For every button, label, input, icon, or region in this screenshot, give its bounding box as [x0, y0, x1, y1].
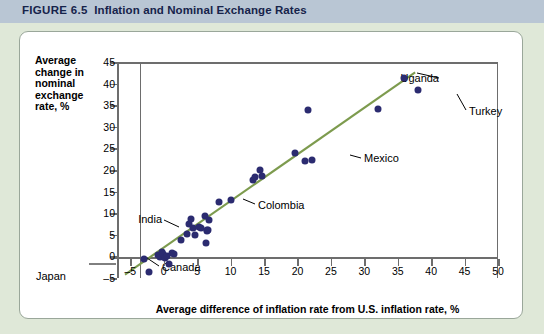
figure-title: FIGURE 6.5 Inflation and Nominal Exchang…: [22, 4, 307, 16]
annotation-mexico: Mexico: [364, 152, 399, 164]
x-tick-label: 40: [425, 265, 437, 277]
y-tick-label: 25: [103, 142, 115, 154]
data-point-turkey: [414, 86, 421, 93]
data-point: [171, 251, 178, 258]
y-tick-label: 35: [103, 99, 115, 111]
x-tick-label: 30: [358, 265, 370, 277]
figure-number: FIGURE 6.5: [22, 4, 88, 16]
data-point: [140, 255, 147, 262]
annotation-turkey: Turkey: [469, 105, 502, 117]
x-tick-label: 35: [392, 265, 404, 277]
data-point-mexico: [308, 156, 315, 163]
data-point: [215, 198, 222, 205]
x-tick-label: 5: [194, 265, 200, 277]
data-point-colombia: [227, 197, 234, 204]
data-point: [202, 239, 209, 246]
figure-title-bar: FIGURE 6.5 Inflation and Nominal Exchang…: [0, 0, 544, 23]
annotation-colombia: Colombia: [258, 199, 304, 211]
figure-root: FIGURE 6.5 Inflation and Nominal Exchang…: [0, 0, 544, 334]
annotation-india: India: [138, 213, 162, 225]
y-axis-title: Average change in nominal exchange rate,…: [35, 55, 107, 113]
x-tick-label: 45: [459, 265, 471, 277]
leader-mexico: [350, 155, 361, 158]
figure-title-text: Inflation and Nominal Exchange Rates: [94, 4, 307, 16]
data-point: [259, 173, 266, 180]
x-tick-label: 20: [292, 265, 304, 277]
data-point: [177, 236, 184, 243]
data-point: [187, 216, 194, 223]
x-axis-title: Average difference of inflation rate fro…: [117, 303, 498, 315]
leader-colombia: [243, 199, 255, 204]
annotation-japan: Japan: [36, 270, 66, 282]
leader-turkey: [457, 94, 466, 110]
data-point: [146, 268, 153, 275]
plot-area: Uganda Turkey Mexico Colombia India Cana…: [117, 62, 498, 278]
y-tick-label: 40: [103, 78, 115, 90]
leader-india: [164, 220, 179, 227]
y-tick-label: 20: [103, 164, 115, 176]
data-point: [291, 149, 298, 156]
data-point-uganda: [401, 74, 408, 81]
data-point-canada: [166, 260, 173, 267]
y-tick-label: 10: [103, 207, 115, 219]
annotation-leader-lines: [117, 62, 498, 278]
x-tick-label: 25: [325, 265, 337, 277]
data-point-india: [191, 231, 198, 238]
data-point: [183, 230, 190, 237]
x-tick-label: 50: [492, 265, 504, 277]
data-point: [204, 227, 211, 234]
y-tick-label: 15: [103, 186, 115, 198]
y-tick-label: 30: [103, 121, 115, 133]
x-tick-label: –5: [125, 265, 137, 277]
x-tick-label: 0: [161, 265, 167, 277]
data-point: [251, 173, 258, 180]
x-tick-label: 15: [258, 265, 270, 277]
y-tick-label: 0: [109, 250, 115, 262]
y-tick-label: 5: [109, 229, 115, 241]
y-tick-label: 45: [103, 56, 115, 68]
x-tick-label: 10: [225, 265, 237, 277]
data-point: [374, 105, 381, 112]
data-point: [305, 106, 312, 113]
data-point: [206, 217, 213, 224]
y-tick-label: –5: [103, 272, 115, 284]
